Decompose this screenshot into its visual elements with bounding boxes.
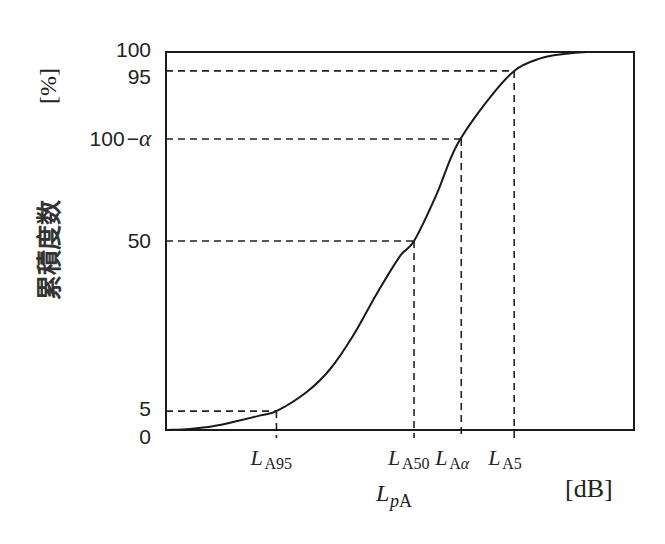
y-axis-title: 累積度数: [35, 199, 64, 300]
y-tick-label: 5: [139, 397, 151, 420]
x-marker-sub: A50: [402, 455, 430, 472]
x-marker-main: L: [487, 445, 500, 470]
x-axis-title-sub: pA: [388, 491, 412, 511]
x-axis-markers: LA95LA50LAαLA5: [249, 445, 521, 472]
x-marker-sub: A95: [264, 455, 292, 472]
y-axis-ticks: 10095100−α5050: [90, 38, 152, 448]
y-tick-label: 100−α: [90, 126, 152, 151]
y-axis-label: 累積度数 [%]: [35, 68, 64, 300]
reference-lines: [166, 71, 514, 438]
x-marker-label: LA95: [249, 445, 292, 472]
x-marker-main: L: [387, 445, 400, 470]
y-tick-label: 50: [128, 229, 151, 252]
y-tick-label: 100: [116, 38, 151, 61]
x-marker-label: LAα: [434, 445, 470, 472]
x-marker-sub: A5: [502, 455, 522, 472]
chart-root: 10095100−α5050 LA95LA50LAαLA5 累積度数 [%] L…: [0, 0, 665, 544]
y-tick-label: 95: [128, 65, 151, 88]
x-marker-main: L: [249, 445, 262, 470]
x-marker-label: LA5: [487, 445, 522, 472]
y-axis-unit: [%]: [35, 68, 61, 104]
x-marker-main: L: [434, 445, 447, 470]
x-marker-sub: Aα: [449, 455, 470, 472]
x-marker-label: LA50: [387, 445, 430, 472]
x-axis-title-main: L: [375, 480, 389, 506]
x-axis-unit: [dB]: [565, 474, 613, 503]
cumulative-frequency-chart: 10095100−α5050 LA95LA50LAαLA5 累積度数 [%] L…: [0, 0, 665, 544]
x-axis-label: L pA [dB]: [375, 474, 613, 511]
y-tick-label: 0: [139, 425, 151, 448]
